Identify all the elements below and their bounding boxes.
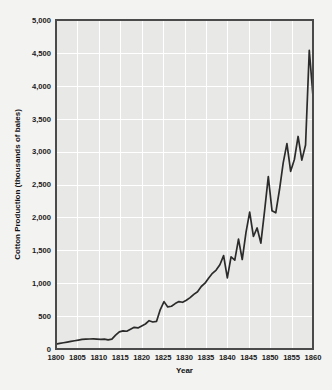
- y-axis-tick-label: 4,000: [32, 82, 51, 91]
- x-axis-tick-label: 1805: [69, 353, 87, 362]
- plot-area-background: [56, 20, 313, 349]
- y-axis-tick-label: 3,000: [32, 147, 51, 156]
- x-axis-tick-label: 1825: [155, 353, 173, 362]
- y-axis-tick-label: 3,500: [32, 115, 51, 124]
- x-axis-tick-label: 1820: [133, 353, 150, 362]
- x-axis-tick-label: 1835: [197, 353, 215, 362]
- y-axis-tick-label: 2,000: [32, 213, 51, 222]
- x-axis-tick-label: 1850: [262, 353, 279, 362]
- y-axis-title: Cotton Production (thousands of bales): [13, 109, 22, 260]
- y-axis-tick-label: 500: [38, 312, 51, 321]
- x-axis-tick-label: 1860: [305, 353, 322, 362]
- x-axis-tick-label: 1810: [90, 353, 107, 362]
- x-axis-tick-label: 1845: [240, 353, 258, 362]
- x-axis-tick-label: 1840: [219, 353, 236, 362]
- y-axis-tick-label: 2,500: [32, 180, 51, 189]
- x-axis-tick-label: 1800: [48, 353, 65, 362]
- y-axis-tick-label: 1,000: [32, 279, 51, 288]
- y-axis-tick-label: 4,500: [32, 49, 51, 58]
- x-axis-tick-label: 1815: [112, 353, 130, 362]
- chart-canvas: 05001,0001,5002,0002,5003,0003,5004,0004…: [0, 0, 332, 390]
- cotton-production-chart-figure: 05001,0001,5002,0002,5003,0003,5004,0004…: [0, 0, 332, 390]
- y-axis-tick-label: 1,500: [32, 246, 51, 255]
- x-axis-tick-label: 1830: [176, 353, 193, 362]
- x-axis-title: Year: [176, 366, 193, 375]
- y-axis-tick-label: 5,000: [32, 16, 51, 25]
- x-axis-tick-label: 1855: [283, 353, 301, 362]
